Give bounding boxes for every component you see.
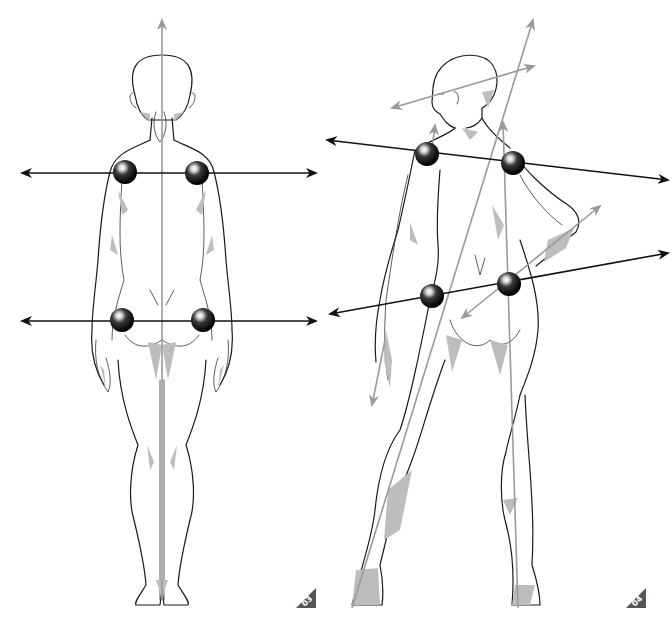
fig04-right-shoulder-marker: [501, 151, 525, 175]
fig03-left-hip-marker: [110, 308, 134, 332]
fig03-left-shoulder-marker: [113, 160, 137, 184]
anatomy-diagram: 03 04: [0, 0, 672, 623]
fig04-hand-on-hip-axis: [462, 206, 600, 318]
figure-03-label-tag: 03: [296, 588, 316, 608]
fig04-legs-outline: [352, 300, 540, 605]
fig04-supporting-leg-axis: [503, 122, 518, 608]
fig04-right-hip-marker: [497, 272, 521, 296]
fig04-left-shoulder-marker: [415, 142, 439, 166]
fig04-shoulder-line: [327, 140, 668, 180]
fig04-body-axis: [352, 20, 533, 608]
figure-04: [352, 55, 579, 605]
fig04-left-hip-marker: [420, 284, 444, 308]
fig03-right-shoulder-marker: [185, 161, 209, 185]
figure-04-label-tag: 04: [626, 588, 646, 608]
fig04-arm-axis-hanging: [372, 340, 385, 405]
fig03-right-hip-marker: [191, 308, 215, 332]
